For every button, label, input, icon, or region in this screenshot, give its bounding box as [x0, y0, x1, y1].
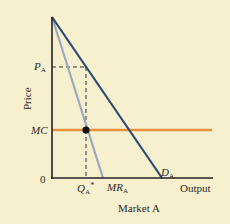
pa-sub: A [41, 66, 46, 74]
qa-main: Q [77, 182, 85, 194]
qa-star: * [90, 181, 94, 190]
mr-label: MRA [107, 182, 128, 195]
zero-label: 0 [40, 174, 46, 185]
d-sub: A [169, 172, 174, 180]
mr-sub: A [123, 187, 128, 195]
chart-caption: Market A [118, 203, 160, 214]
pa-main: P [34, 60, 41, 72]
optimum-point [82, 126, 89, 133]
y-axis-label: Price [22, 87, 33, 110]
mr-line [52, 17, 103, 178]
demand-label: DA [161, 167, 174, 180]
demand-line [52, 17, 162, 178]
pa-tick-label: PA [34, 61, 46, 74]
d-main: D [161, 166, 169, 178]
mc-tick-label: MC [31, 125, 48, 136]
qa-tick-label: QA* [77, 182, 94, 196]
mr-main: MR [107, 181, 123, 193]
x-axis-label: Output [180, 183, 211, 194]
